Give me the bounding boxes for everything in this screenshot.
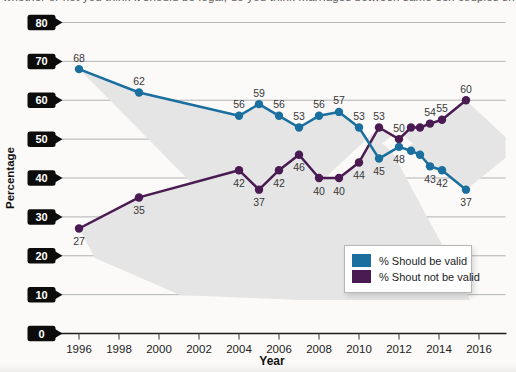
point-label: 42 [233, 177, 245, 189]
y-axis-badge: 70 [28, 54, 63, 70]
data-point [75, 65, 83, 73]
data-point [275, 112, 283, 120]
point-label: 56 [313, 98, 325, 110]
point-label: 53 [293, 110, 305, 122]
data-point [462, 185, 470, 193]
point-label: 46 [293, 161, 305, 173]
data-point [375, 123, 383, 131]
x-tick-label: 2014 [426, 343, 452, 355]
point-label: 54 [424, 106, 436, 118]
legend-label-should-be-valid: % Should be valid [379, 255, 467, 267]
y-axis-badge: 60 [28, 93, 63, 109]
x-tick-label: 2010 [346, 343, 372, 355]
y-tick-label: 20 [35, 250, 47, 262]
y-tick-label: 10 [35, 289, 47, 301]
badge-tail-icon [55, 329, 63, 338]
data-point [235, 166, 243, 174]
data-point [335, 174, 343, 182]
data-point [416, 123, 424, 131]
data-point [75, 224, 83, 232]
data-point [438, 166, 446, 174]
point-label: 59 [253, 87, 265, 99]
data-point [426, 119, 434, 127]
point-label: 45 [373, 165, 385, 177]
point-label: 43 [424, 173, 436, 185]
y-axis-badge: 30 [28, 209, 63, 225]
badge-tail-icon [55, 212, 63, 221]
x-tick-label: 2012 [386, 343, 412, 355]
x-tick-label: 2000 [146, 343, 172, 355]
point-label: 60 [460, 83, 472, 95]
x-tick-label: 1996 [66, 343, 92, 355]
legend-item-should-be-valid: % Should be valid [352, 254, 464, 267]
chart-page: whether or not you think it should be le… [0, 0, 516, 372]
point-label: 62 [133, 75, 145, 87]
y-tick-label: 0 [38, 328, 44, 340]
y-axis-badge: 10 [28, 287, 63, 303]
point-label: 57 [333, 94, 345, 106]
data-point [416, 150, 424, 158]
y-axis-badge: 80 [28, 15, 63, 31]
point-label: 56 [273, 98, 285, 110]
y-tick-label: 70 [35, 55, 47, 67]
x-tick-label: 1998 [106, 343, 132, 355]
chart-canvas: 1996199820002002200420062008201020122014… [0, 0, 516, 372]
badge-tail-icon [55, 135, 63, 144]
data-point [315, 174, 323, 182]
x-tick-label: 2002 [186, 343, 212, 355]
point-label: 50 [393, 122, 405, 134]
data-point [438, 115, 446, 123]
badge-tail-icon [55, 96, 63, 105]
y-tick-label: 40 [35, 172, 47, 184]
data-point [335, 108, 343, 116]
point-label: 42 [273, 177, 285, 189]
badge-tail-icon [55, 174, 63, 183]
point-label: 53 [353, 110, 365, 122]
data-point [426, 162, 434, 170]
y-axis-badges: 80706050403020100 [28, 15, 63, 342]
point-label: 37 [253, 196, 265, 208]
point-label: 55 [436, 102, 448, 114]
data-point [407, 123, 415, 131]
data-point [395, 135, 403, 143]
legend-swatch-blue-icon [352, 254, 371, 267]
x-axis-title: Year [232, 354, 312, 368]
y-tick-label: 60 [35, 94, 47, 106]
data-point [295, 150, 303, 158]
y-axis-badge: 40 [28, 170, 63, 186]
point-label: 53 [373, 110, 385, 122]
x-tick-label: 2016 [466, 343, 492, 355]
y-tick-label: 30 [35, 211, 47, 223]
data-point [135, 88, 143, 96]
data-point [135, 193, 143, 201]
badge-tail-icon [55, 57, 63, 66]
data-point [255, 185, 263, 193]
point-label: 37 [460, 196, 472, 208]
point-label: 35 [133, 204, 145, 216]
data-point [462, 96, 470, 104]
data-point [275, 166, 283, 174]
y-axis-title: Percentage [4, 128, 18, 228]
data-point [395, 143, 403, 151]
data-point [255, 100, 263, 108]
point-label: 48 [393, 153, 405, 165]
y-axis-badge: 20 [28, 248, 63, 264]
point-label: 44 [353, 169, 365, 181]
badge-tail-icon [55, 290, 63, 299]
badge-tail-icon [55, 251, 63, 260]
legend-item-shout-not-be-valid: % Shout not be valid [352, 270, 464, 283]
data-point [375, 154, 383, 162]
point-label: 40 [333, 185, 345, 197]
data-point [295, 123, 303, 131]
y-axis-badge: 0 [28, 326, 63, 342]
point-label: 56 [233, 98, 245, 110]
data-point [355, 158, 363, 166]
y-axis-badge: 50 [28, 131, 63, 147]
point-label: 40 [313, 185, 325, 197]
data-point [235, 112, 243, 120]
y-tick-label: 80 [35, 17, 47, 29]
data-point [407, 147, 415, 155]
point-label: 27 [73, 235, 85, 247]
point-label: 68 [73, 52, 85, 64]
legend-label-shout-not-be-valid: % Shout not be valid [379, 271, 480, 283]
